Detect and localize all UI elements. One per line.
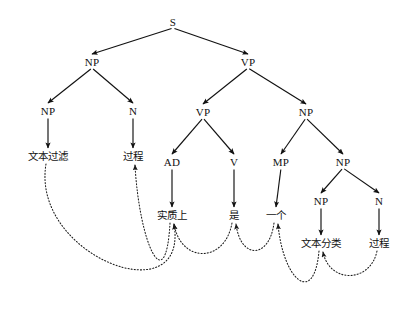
tree-edge-s-to-vp1 — [174, 28, 248, 54]
leaf-label-l3: 实质上 — [157, 210, 187, 221]
tree-edge-mp-to-l5 — [276, 169, 281, 207]
tree-node-vp1: VP — [241, 57, 256, 68]
tree-edge-vp1-to-np3 — [249, 69, 306, 104]
tree-node-mp: MP — [273, 157, 290, 168]
tree-node-v: V — [230, 157, 238, 168]
tree-node-s: S — [170, 17, 176, 28]
alignment-arc-l4-to-l3 — [174, 223, 232, 254]
tree-node-ad: AD — [164, 157, 181, 168]
tree-edge-np3-to-mp — [281, 119, 305, 154]
tree-edge-np4-to-np5 — [321, 169, 342, 193]
tree-node-np4: NP — [336, 157, 351, 168]
leaf-label-l5: 一个 — [266, 210, 286, 221]
tree-edge-np1-to-np2 — [48, 69, 91, 103]
tree-edge-np3-to-np4 — [307, 119, 343, 154]
syntax-tree-figure: SNPVPNPNVPNPADVMPNPNPN文本过滤过程实质上是一个文本分类过程 — [0, 0, 408, 309]
tree-edge-vp1-to-vp2 — [203, 69, 247, 104]
tree-edge-vp2-to-v — [204, 119, 234, 154]
tree-node-vp2: VP — [196, 107, 211, 118]
tree-node-n1: N — [129, 106, 137, 117]
tree-edge-s-to-np1 — [92, 28, 172, 54]
tree-node-np2: NP — [41, 106, 56, 117]
tree-node-np5: NP — [314, 196, 329, 207]
alignment-arc-layer — [45, 164, 377, 282]
leaf-label-l1: 文本过滤 — [28, 151, 68, 162]
alignment-arc-l7-to-l6 — [323, 251, 377, 276]
leaf-label-l7: 过程 — [369, 238, 389, 249]
leaf-label-l6: 文本分类 — [301, 238, 341, 249]
tree-edge-np1-to-n1 — [93, 69, 133, 103]
alignment-arc-l1-to-l3 — [45, 164, 175, 270]
leaf-label-l2: 过程 — [123, 151, 143, 162]
tree-edge-np4-to-n2 — [344, 169, 379, 193]
tree-node-np3: NP — [299, 107, 314, 118]
alignment-arc-l6-to-l5 — [278, 224, 319, 282]
tree-node-np1: NP — [85, 57, 100, 68]
tree-edge-vp2-to-ad — [172, 119, 202, 154]
tree-node-n2: N — [375, 196, 383, 207]
alignment-arc-l5-to-l4 — [236, 223, 274, 251]
leaf-label-l4: 是 — [229, 210, 239, 221]
